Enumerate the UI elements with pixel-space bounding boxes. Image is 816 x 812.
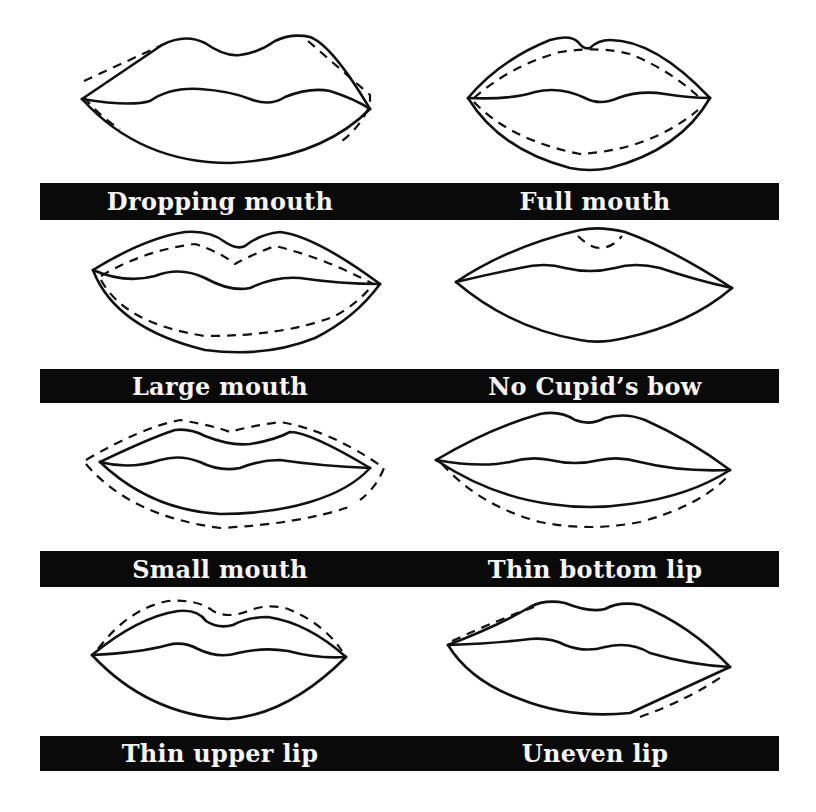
label-small-mouth: Small mouth [40,551,400,587]
lip-figure-small-mouth [80,410,400,540]
label-bar-row-3: Small mouth Thin bottom lip [40,551,779,587]
label-bar-row-1: Dropping mouth Full mouth [40,183,779,220]
label-thin-upper-lip: Thin upper lip [40,736,400,771]
label-bar-row-2: Large mouth No Cupid’s bow [40,369,779,403]
lip-figure-dropping-mouth [70,25,390,175]
label-bar-row-4: Thin upper lip Uneven lip [40,736,779,771]
lip-figure-uneven-lip [440,595,740,725]
label-uneven-lip: Uneven lip [410,736,780,771]
lip-figure-no-cupids-bow [450,228,740,358]
label-thin-bottom-lip: Thin bottom lip [410,551,780,587]
label-large-mouth: Large mouth [40,369,400,403]
label-no-cupids-bow: No Cupid’s bow [410,369,780,403]
lip-figure-thin-bottom-lip [430,410,740,540]
lip-figure-large-mouth [85,228,385,368]
label-full-mouth: Full mouth [410,183,780,220]
lip-figure-full-mouth [460,30,720,175]
label-dropping-mouth: Dropping mouth [40,183,400,220]
lip-figure-thin-upper-lip [88,595,358,725]
